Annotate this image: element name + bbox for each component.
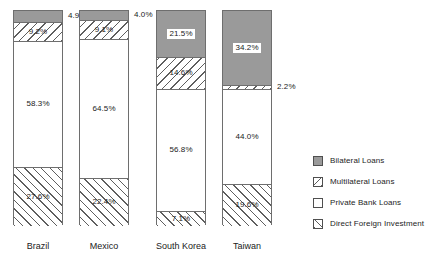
bar-group: 21.5%14.6%56.8%7.1%South Korea [156,10,206,225]
bar-segment-multilateral-loans: 9.1% [80,20,128,40]
bar-group: 4.0%9.1%64.5%22.4%Mexico [79,10,129,225]
chart-legend: Bilateral LoansMultilateral LoansPrivate… [313,150,434,234]
segment-value-label: 9.1% [95,26,114,34]
bar-segment-direct-foreign-investment: 27.6% [14,167,62,226]
bar-stack: 4.9%9.2%58.3%27.6% [13,10,63,225]
bar-segment-multilateral-loans: 14.6% [157,57,205,88]
legend-swatch-icon [313,156,323,166]
segment-value-label: 27.6% [26,193,49,201]
segment-value-label: 19.6% [235,201,258,209]
segment-value-label: 9.2% [29,28,48,36]
segment-value-label: 22.4% [92,198,115,206]
bar-stack: 4.0%9.1%64.5%22.4% [79,10,129,225]
bar-stack: 21.5%14.6%56.8%7.1% [156,10,206,225]
segment-value-label: 58.3% [26,100,49,108]
legend-item-private-bank-loans[interactable]: Private Bank Loans [313,192,434,213]
bar-segment-bilateral-loans: 21.5% [157,11,205,57]
bar-stack: 34.2%2.2%44.0%19.6% [222,10,272,225]
segment-value-label: 44.0% [235,133,258,141]
legend-item-bilateral-loans[interactable]: Bilateral Loans [313,150,434,171]
bar-segment-private-bank-loans: 44.0% [223,89,271,184]
category-label: Brazil [13,241,63,251]
bar-group: 34.2%2.2%44.0%19.6%Taiwan [222,10,272,225]
legend-swatch-icon [313,177,323,187]
plot-area: 4.9%9.2%58.3%27.6%Brazil4.0%9.1%64.5%22.… [0,0,300,260]
bar-group: 4.9%9.2%58.3%27.6%Brazil [13,10,63,225]
bar-segment-bilateral-loans: 34.2% [223,11,271,85]
bar-segment-private-bank-loans: 64.5% [80,39,128,178]
stacked-bar-chart: 4.9%9.2%58.3%27.6%Brazil4.0%9.1%64.5%22.… [0,0,434,260]
category-label: South Korea [156,241,206,251]
bar-segment-private-bank-loans: 56.8% [157,89,205,211]
bar-segment-bilateral-loans: 4.9% [14,11,62,22]
segment-value-label: 64.5% [92,105,115,113]
bar-segment-private-bank-loans: 58.3% [14,41,62,166]
legend-label: Bilateral Loans [330,156,384,165]
category-label: Taiwan [222,241,272,251]
legend-label: Direct Foreign Investment [330,219,424,228]
bar-segment-direct-foreign-investment: 7.1% [157,211,205,226]
segment-value-label: 7.1% [172,215,191,223]
legend-label: Multilateral Loans [330,177,395,186]
segment-value-label: 34.2% [233,43,260,53]
legend-item-direct-foreign-investment[interactable]: Direct Foreign Investment [313,213,434,234]
bar-segment-direct-foreign-investment: 19.6% [223,184,271,226]
segment-value-label: 21.5% [167,29,194,39]
segment-value-label: 14.6% [169,69,192,77]
legend-swatch-icon [313,219,323,229]
bar-segment-multilateral-loans: 9.2% [14,22,62,42]
segment-value-label: 2.2% [277,83,296,91]
segment-value-label: 56.8% [169,146,192,154]
category-label: Mexico [79,241,129,251]
legend-swatch-icon [313,198,323,208]
legend-item-multilateral-loans[interactable]: Multilateral Loans [313,171,434,192]
segment-value-label: 4.0% [134,11,153,19]
bar-segment-bilateral-loans: 4.0% [80,11,128,20]
legend-label: Private Bank Loans [330,198,401,207]
bar-segment-direct-foreign-investment: 22.4% [80,178,128,226]
